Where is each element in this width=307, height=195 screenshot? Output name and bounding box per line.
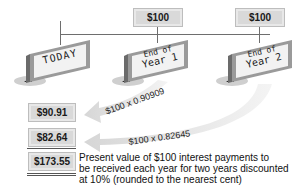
description-line-2: be received each year for two years disc… xyxy=(79,163,307,174)
double-underline-top xyxy=(27,173,76,174)
sum-line xyxy=(27,148,76,149)
present-value-year2-label: $82.64 xyxy=(37,132,68,143)
present-value-year2: $82.64 xyxy=(28,128,76,147)
double-underline-bottom xyxy=(27,175,76,176)
present-value-year1: $90.91 xyxy=(28,103,76,122)
arrow-year2-icon xyxy=(84,84,272,152)
total-present-value-label: $173.55 xyxy=(34,156,70,167)
total-description: Present value of $100 interest payments … xyxy=(79,152,307,185)
description-line-1: Present value of $100 interest payments … xyxy=(79,152,307,163)
total-present-value: $173.55 xyxy=(28,152,76,171)
present-value-year1-label: $90.91 xyxy=(37,107,68,118)
description-line-3: at 10% (rounded to the nearest cent) xyxy=(79,174,307,185)
